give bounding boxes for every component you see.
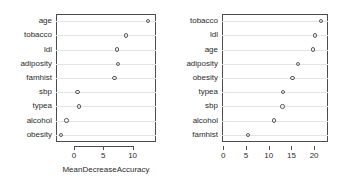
gridline bbox=[56, 135, 156, 136]
data-point-alcohol bbox=[64, 118, 68, 122]
gridline bbox=[222, 78, 328, 79]
x-tick bbox=[269, 146, 270, 150]
data-point-tobacco bbox=[124, 33, 128, 37]
gridline bbox=[56, 35, 156, 36]
gridline bbox=[56, 78, 156, 79]
data-point-famhist bbox=[246, 133, 250, 137]
data-point-adiposity bbox=[116, 62, 120, 66]
category-label-tobacco: tobacco bbox=[190, 17, 218, 25]
panel-mean-decrease-gini: tobaccoldlageadiposityobesitytypeasbpalc… bbox=[170, 0, 340, 184]
gridline bbox=[222, 21, 328, 22]
data-point-ldl bbox=[313, 33, 317, 37]
x-tick bbox=[291, 146, 292, 150]
category-label-ldl: ldl bbox=[44, 46, 52, 54]
gridline bbox=[56, 21, 156, 22]
x-tick-label: 15 bbox=[287, 151, 296, 160]
gridline bbox=[56, 64, 156, 65]
gridline bbox=[222, 64, 328, 65]
x-tick-label: 0 bbox=[72, 151, 76, 160]
gridline bbox=[222, 135, 328, 136]
category-label-sbp: sbp bbox=[205, 102, 218, 110]
x-tick bbox=[74, 146, 75, 150]
category-label-famhist: famhist bbox=[26, 74, 52, 82]
x-tick bbox=[103, 146, 104, 150]
x-tick-label: 5 bbox=[101, 151, 105, 160]
variable-importance-figure: agetobaccoldladiposityfamhistsbptypeaalc… bbox=[0, 0, 340, 184]
x-tick bbox=[314, 146, 315, 150]
x-tick bbox=[246, 146, 247, 150]
data-point-ldl bbox=[115, 47, 119, 51]
gridline bbox=[56, 50, 156, 51]
category-label-ldl: ldl bbox=[210, 31, 218, 39]
category-label-typea: typea bbox=[32, 102, 52, 110]
category-label-obesity: obesity bbox=[193, 74, 218, 82]
gridline bbox=[56, 121, 156, 122]
category-label-alcohol: alcohol bbox=[27, 117, 52, 125]
panel-mean-decrease-accuracy: agetobaccoldladiposityfamhistsbptypeaalc… bbox=[0, 0, 170, 184]
x-tick-label: 20 bbox=[310, 151, 319, 160]
x-tick-label: 10 bbox=[264, 151, 273, 160]
category-label-adiposity: adiposity bbox=[186, 60, 218, 68]
category-label-age: age bbox=[39, 17, 52, 25]
data-point-sbp bbox=[280, 104, 284, 108]
data-point-obesity bbox=[290, 76, 294, 80]
category-label-alcohol: alcohol bbox=[193, 117, 218, 125]
gridline bbox=[56, 106, 156, 107]
category-label-sbp: sbp bbox=[39, 88, 52, 96]
category-label-typea: typea bbox=[198, 88, 218, 96]
data-point-famhist bbox=[112, 76, 116, 80]
x-tick-label: 5 bbox=[244, 151, 248, 160]
data-point-alcohol bbox=[272, 118, 276, 122]
category-label-famhist: famhist bbox=[192, 131, 218, 139]
gridline bbox=[222, 106, 328, 107]
x-tick bbox=[133, 146, 134, 150]
data-point-adiposity bbox=[296, 62, 300, 66]
category-label-age: age bbox=[205, 46, 218, 54]
gridline bbox=[56, 92, 156, 93]
category-label-tobacco: tobacco bbox=[24, 31, 52, 39]
x-tick-label: 0 bbox=[221, 151, 225, 160]
gridline bbox=[222, 92, 328, 93]
x-axis-title-accuracy: MeanDecreaseAccuracy bbox=[62, 165, 149, 174]
category-label-obesity: obesity bbox=[27, 131, 52, 139]
x-tick bbox=[223, 146, 224, 150]
x-tick-label: 10 bbox=[128, 151, 137, 160]
category-label-adiposity: adiposity bbox=[20, 60, 52, 68]
